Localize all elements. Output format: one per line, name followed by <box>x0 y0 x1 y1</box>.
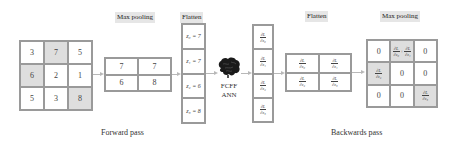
flatten-cell: z₀ = 7 <box>182 24 205 49</box>
input-cell: 3 <box>20 41 44 64</box>
arrow-icon <box>352 72 362 73</box>
ann-label-line1: FCFF <box>214 82 244 91</box>
input-cell: 3 <box>44 87 68 110</box>
gradient-cell: ∂L∂z₁ <box>253 49 273 73</box>
input-cell: 2 <box>44 64 68 87</box>
frac-den: ∂z₃ <box>332 82 338 87</box>
frac-den: ∂z₀ <box>393 52 399 57</box>
gradient-cell: ∂L∂z₂ <box>253 74 273 98</box>
output-cell: 0 <box>414 62 437 84</box>
flatten-cell: z₃ = 8 <box>182 98 205 123</box>
pooled-cell: 8 <box>138 75 171 92</box>
frac-den: ∂z₂ <box>260 86 266 91</box>
frac-den: ∂z₁ <box>260 62 266 67</box>
frac-den: ∂z₃ <box>260 110 266 115</box>
output-cell: 0 <box>367 40 390 62</box>
flatten-forward-label: Flatten <box>180 12 203 23</box>
pooled-cell: 6 <box>105 75 138 92</box>
flatten-column: z₀ = 7 z₁ = 7 z₂ = 6 z₃ = 8 <box>181 23 206 124</box>
output-cell: 0 <box>390 85 413 107</box>
backwards-pass-caption: Backwards pass <box>331 128 382 137</box>
frac-den: ∂z₀ <box>299 64 305 69</box>
input-cell-max: 8 <box>68 87 92 110</box>
output-cell: 0 <box>390 62 413 84</box>
output-cell-gradient: ∂L∂z₃ <box>414 85 437 107</box>
input-cell: 5 <box>68 41 92 64</box>
brain-icon <box>217 57 241 79</box>
input-cell-max: 6 <box>20 64 44 87</box>
max-pooling-backward-label: Max pooling <box>380 11 420 22</box>
frac-den: ∂z₃ <box>423 96 429 101</box>
arrow-icon <box>206 73 215 74</box>
flatten-cell: z₁ = 7 <box>182 49 205 74</box>
frac-den: ∂z₀ <box>260 38 266 43</box>
pooled-cell: 7 <box>138 58 171 75</box>
input-cell: 5 <box>20 87 44 110</box>
frac-den: ∂z₂ <box>376 74 382 79</box>
arrow-icon <box>93 74 101 75</box>
flatten-backward-label: Flatten <box>305 11 328 22</box>
gradient-grid-cell: ∂L∂z₃ <box>319 73 352 92</box>
input-cell: 1 <box>68 64 92 87</box>
gradient-column: ∂L∂z₀ ∂L∂z₁ ∂L∂z₂ ∂L∂z₃ <box>252 24 274 123</box>
output-cell-gradient-sum: ∂L∂z₀ + ∂L∂z₁ <box>390 40 413 62</box>
gradient-cell: ∂L∂z₃ <box>253 98 273 122</box>
gradient-grid-cell: ∂L∂z₁ <box>319 54 352 73</box>
gradient-cell: ∂L∂z₀ <box>253 25 273 49</box>
pooled-cell: 7 <box>105 58 138 75</box>
frac-den: ∂z₁ <box>332 64 338 69</box>
forward-pass-caption: Forward pass <box>101 128 144 137</box>
gradient-grid-cell: ∂L∂z₂ <box>286 73 319 92</box>
arrow-icon <box>172 74 178 75</box>
output-grid: 0 ∂L∂z₀ + ∂L∂z₁ 0 ∂L∂z₂ 0 0 0 0 ∂L∂z₃ <box>366 39 438 108</box>
max-pooling-forward-label: Max pooling <box>115 12 155 23</box>
frac-den: ∂z₁ <box>405 52 411 57</box>
output-cell: 0 <box>414 40 437 62</box>
input-cell-max: 7 <box>44 41 68 64</box>
ann-label: FCFF ANN <box>214 82 244 100</box>
output-cell-gradient: ∂L∂z₂ <box>367 62 390 84</box>
arrow-icon <box>274 73 282 74</box>
pooled-grid: 7 7 6 8 <box>104 57 172 92</box>
input-grid: 3 7 5 6 2 1 5 3 8 <box>19 40 93 111</box>
arrow-icon <box>241 73 249 74</box>
ann-label-line2: ANN <box>214 91 244 100</box>
frac-den: ∂z₂ <box>299 82 305 87</box>
gradient-grid: ∂L∂z₀ ∂L∂z₁ ∂L∂z₂ ∂L∂z₃ <box>285 53 352 92</box>
plus-sign: + <box>401 49 404 54</box>
flatten-cell: z₂ = 6 <box>182 74 205 99</box>
gradient-grid-cell: ∂L∂z₀ <box>286 54 319 73</box>
output-cell: 0 <box>367 85 390 107</box>
